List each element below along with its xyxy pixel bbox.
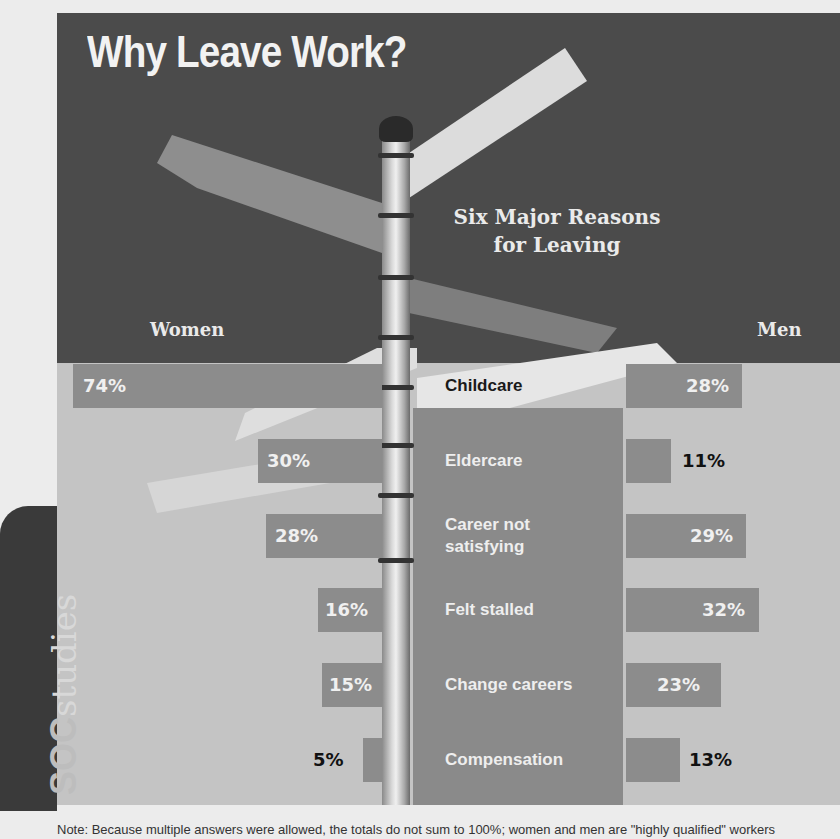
men-value-compensation: 13% (689, 738, 732, 782)
men-value-childcare: 28% (686, 364, 729, 408)
reason-label-compensation: Compensation (445, 749, 563, 771)
signpost-pole (382, 128, 410, 805)
pole-ring (378, 275, 414, 280)
subtitle-line-2: for Leaving (407, 231, 707, 259)
reason-label-felt-stalled: Felt stalled (445, 599, 534, 621)
men-value-felt-stalled: 32% (702, 588, 745, 632)
pole-ring (378, 558, 414, 563)
subtitle-line-1: Six Major Reasons (407, 203, 707, 231)
brand-studies: studies (44, 594, 84, 717)
reason-label-eldercare: Eldercare (445, 450, 523, 472)
women-value-childcare: 74% (83, 364, 126, 408)
reason-label-childcare: Childcare (445, 375, 522, 397)
pole-finial (379, 116, 413, 142)
men-bar-compensation (626, 738, 680, 782)
reason-label-change-careers: Change careers (445, 674, 573, 696)
women-column-header: Women (150, 319, 224, 340)
men-column-header: Men (757, 319, 801, 340)
women-bar-compensation (363, 738, 382, 782)
pole-ring (378, 493, 414, 498)
infographic-panel: Why Leave Work? Six Major Reasons for Le… (57, 13, 840, 805)
women-value-change-careers: 15% (329, 663, 372, 707)
men-value-change-careers: 23% (657, 663, 700, 707)
pole-ring (378, 335, 414, 340)
footnote: Note: Because multiple answers were allo… (57, 822, 840, 839)
brand-soc: SOC (43, 717, 84, 795)
pole-ring (378, 153, 414, 158)
men-bar-eldercare (626, 439, 671, 483)
women-value-felt-stalled: 16% (325, 588, 368, 632)
chart-subtitle: Six Major Reasons for Leaving (407, 203, 707, 259)
women-value-compensation: 5% (313, 738, 344, 782)
page-title: Why Leave Work? (87, 27, 407, 77)
pole-ring (378, 385, 414, 390)
men-value-eldercare: 11% (682, 439, 725, 483)
men-value-career-not-satisfying: 29% (690, 514, 733, 558)
women-value-career-not-satisfying: 28% (275, 514, 318, 558)
women-value-eldercare: 30% (267, 439, 310, 483)
soc-studies-logo: SOCstudies (43, 594, 85, 795)
pole-ring (378, 443, 414, 448)
reason-label-career-not-satisfying: Career not satisfying (445, 514, 565, 558)
